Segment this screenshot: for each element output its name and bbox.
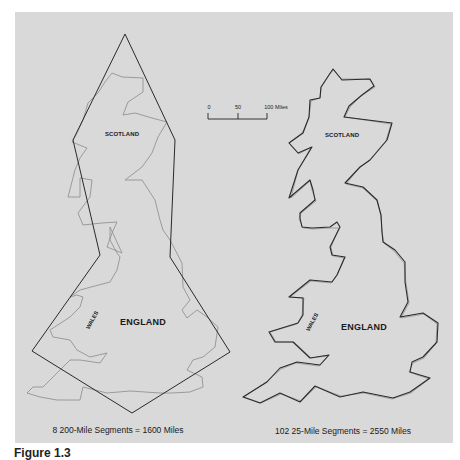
right-map-caption: 102 25-Mile Segments = 2550 Miles — [275, 426, 411, 436]
figure-caption-fragment: Figure 1.3 — [14, 446, 71, 460]
left-segment-polygon — [32, 34, 230, 413]
left-label-scotland: SCOTLAND — [105, 131, 139, 137]
left-map-caption: 8 200-Mile Segments = 1600 Miles — [52, 425, 183, 435]
scale-label-50: 50 — [235, 104, 241, 110]
right-coastline — [244, 70, 437, 403]
right-label-scotland: SCOTLAND — [325, 132, 359, 138]
right-segment-polygon — [243, 69, 438, 403]
left-coastline — [27, 73, 218, 400]
scale-label-100-miles: 100 Miles — [264, 104, 288, 110]
scale-label-0: 0 — [207, 104, 210, 110]
left-label-england: ENGLAND — [120, 317, 166, 327]
right-label-england: ENGLAND — [341, 322, 387, 332]
scale-bar — [208, 113, 267, 119]
